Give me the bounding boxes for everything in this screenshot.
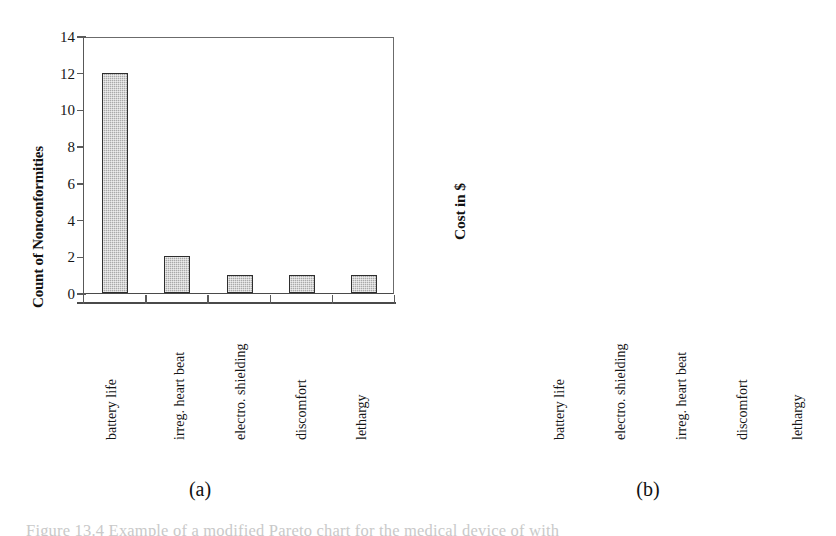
bar-a-2 [227,275,253,293]
x-category-label-a-1: irreg. heart beat [172,352,188,440]
x-category-label-b-4: lethargy [790,394,806,440]
bar-a-3 [289,275,315,293]
x-tick-mark-a-0 [83,295,84,304]
y-tick-label-a-4: 8 [0,139,75,156]
x-tick-mark-a-5 [394,295,395,304]
x-tick-mark-a-3 [270,295,271,304]
y-tick-label-a-1: 2 [0,249,75,266]
x-category-label-a-2: electro. shielding [233,344,249,440]
x-category-label-b-2: irreg. heart beat [674,352,690,440]
x-tick-mark-a-1 [145,295,146,304]
y-tick-mark-a-5 [77,110,84,111]
y-tick-label-a-6: 12 [0,65,75,82]
plot-area-a [83,37,394,294]
x-category-label-b-3: discomfort [735,379,751,440]
y-tick-label-a-5: 10 [0,102,75,119]
y-tick-mark-a-7 [77,36,86,37]
x-category-label-a-3: discomfort [294,379,310,440]
x-category-label-b-0: battery life [552,379,568,440]
y-tick-mark-a-1 [77,257,84,258]
chart-panel-a: Count of Nonconformities 02468101214batt… [0,0,418,536]
x-tick-mark-a-4 [332,295,333,304]
x-axis-line-a [77,302,396,304]
y-tick-mark-a-0 [77,293,86,294]
y-tick-mark-a-2 [77,220,84,221]
x-category-label-a-4: lethargy [354,394,370,440]
y-tick-mark-a-6 [77,73,84,74]
bar-a-0 [102,73,128,293]
y-tick-label-a-0: 0 [0,286,75,303]
y-tick-label-a-7: 14 [0,29,75,46]
y-tick-label-a-3: 6 [0,175,75,192]
x-category-label-a-0: battery life [104,379,120,440]
bar-a-1 [164,256,190,293]
bar-a-4 [351,275,377,293]
panel-b-caption: (b) [598,478,698,501]
y-tick-mark-a-3 [77,183,84,184]
y-axis-title-b: Cost in $ [451,183,469,240]
chart-panel-b: Cost in $ 020000400006000080000100000120… [418,0,836,536]
y-tick-label-a-2: 4 [0,212,75,229]
panel-a-caption: (a) [150,478,250,501]
figure-bottom-caption: Figure 13.4 Example of a modified Pareto… [26,521,826,536]
figure-container: Count of Nonconformities 02468101214batt… [0,0,836,536]
x-tick-mark-a-2 [207,295,208,304]
y-tick-mark-a-4 [77,146,84,147]
x-category-label-b-1: electro. shielding [613,344,629,440]
